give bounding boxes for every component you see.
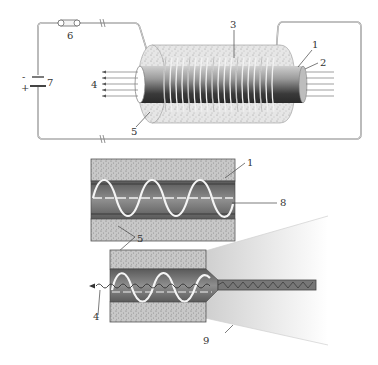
- circuit-panel: - +: [21, 19, 361, 143]
- battery-icon: [30, 75, 46, 87]
- label-7: 7: [47, 77, 53, 88]
- label-2: 2: [320, 57, 326, 68]
- light-rays-output: [306, 72, 334, 96]
- label-3: 3: [230, 19, 236, 30]
- battery-minus-sign: -: [22, 71, 25, 82]
- label-4: 4: [93, 311, 99, 322]
- label-5: 5: [131, 126, 137, 137]
- label-4: 4: [91, 79, 97, 90]
- fiber-tube: [135, 66, 307, 103]
- wire-break-icon: [100, 19, 105, 143]
- label-8: 8: [280, 197, 286, 208]
- diagram-canvas: - +: [0, 0, 378, 365]
- light-rays-input: [102, 71, 138, 98]
- label-9: 9: [203, 335, 209, 346]
- label-6: 6: [67, 30, 73, 41]
- label-1: 1: [247, 157, 253, 168]
- resistor-icon: [58, 20, 80, 26]
- label-1: 1: [312, 39, 318, 50]
- arrow-left-icon: [89, 284, 95, 289]
- label-5: 5: [137, 233, 143, 244]
- battery-plus-sign: +: [21, 82, 29, 93]
